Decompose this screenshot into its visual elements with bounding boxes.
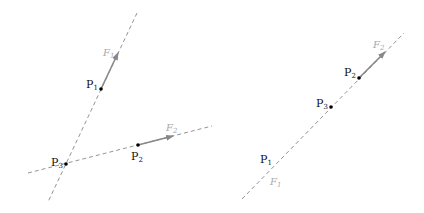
right-diagram: P1 P2 P3 F1 F2 xyxy=(242,33,404,199)
label-p3-right: P3 xyxy=(316,97,328,111)
label-p1-right: P1 xyxy=(260,153,272,167)
label-p1: P1 xyxy=(86,78,98,92)
label-f1-right: F1 xyxy=(269,176,281,189)
point-p2-right xyxy=(357,76,361,80)
label-p2-right: P2 xyxy=(344,66,356,80)
label-f2-right: F2 xyxy=(372,39,385,52)
force-diagrams: P1 P2 P3 F1 F2 P1 P2 P3 F1 F2 xyxy=(0,0,424,213)
line-of-action-1 xyxy=(48,13,137,202)
label-f1: F1 xyxy=(102,47,114,60)
label-f2: F2 xyxy=(165,122,178,135)
point-p1 xyxy=(99,87,103,91)
point-p3-right xyxy=(329,105,333,109)
left-diagram: P1 P2 P3 F1 F2 xyxy=(28,13,212,202)
label-p3: P3 xyxy=(51,156,63,170)
force-arrow-f2-right xyxy=(359,52,385,78)
label-p2: P2 xyxy=(131,150,143,164)
point-p3 xyxy=(64,162,68,166)
point-p2 xyxy=(136,143,140,147)
force-arrow-f2 xyxy=(138,136,173,145)
